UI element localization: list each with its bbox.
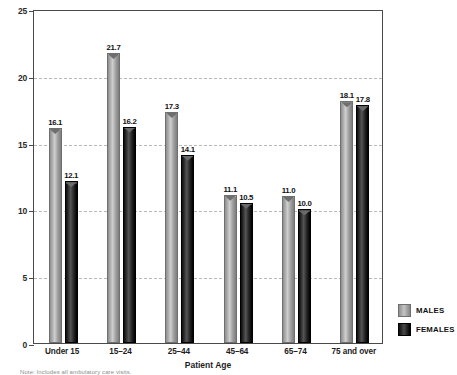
chart-footnote: Note: Includes all ambulatory care visit… xyxy=(20,369,132,375)
bar-group: 18.117.8 xyxy=(326,11,384,343)
bar-value-label: 11.0 xyxy=(282,186,296,195)
bar-value-label: 11.1 xyxy=(223,185,237,194)
y-axis-tick-label: 10 xyxy=(18,206,27,216)
x-axis-tick-label: 75 and over xyxy=(332,347,376,356)
legend-swatch-females-icon xyxy=(398,323,411,336)
bar-males-2: 17.3 xyxy=(165,112,178,343)
bar-value-label: 17.8 xyxy=(356,95,370,104)
bar-females-1: 16.2 xyxy=(123,127,136,343)
bar-top-notch-icon xyxy=(283,197,294,202)
bar-group: 16.112.1 xyxy=(34,11,92,343)
bar-value-label: 17.3 xyxy=(165,102,179,111)
chart-legend: MALES FEMALES xyxy=(398,304,455,342)
bar-top-notch-icon xyxy=(341,102,352,107)
bar-value-label: 10.5 xyxy=(239,193,253,202)
bar-group: 21.716.2 xyxy=(92,11,150,343)
bar-males-0: 16.1 xyxy=(49,128,62,343)
legend-item-females: FEMALES xyxy=(398,323,455,336)
bar-top-notch-icon xyxy=(225,196,236,201)
bar-group: 11.110.5 xyxy=(209,11,267,343)
bar-females-4: 10.0 xyxy=(298,209,311,343)
bar-value-label: 18.1 xyxy=(340,91,354,100)
y-axis-tick-label: 15 xyxy=(18,140,27,150)
bar-value-label: 16.1 xyxy=(48,118,62,127)
y-axis-tick-label: 0 xyxy=(22,340,27,350)
bar-males-3: 11.1 xyxy=(224,195,237,343)
bar-top-notch-icon xyxy=(66,182,77,187)
x-axis-tick-label: 45–64 xyxy=(226,347,248,356)
legend-item-males: MALES xyxy=(398,304,455,317)
bar-top-notch-icon xyxy=(241,204,252,209)
legend-swatch-males-icon xyxy=(398,304,411,317)
x-axis-tick-label: 15–24 xyxy=(109,347,131,356)
x-axis-tick-label: 25–44 xyxy=(168,347,190,356)
legend-label-females: FEMALES xyxy=(416,325,455,334)
bar-females-3: 10.5 xyxy=(240,203,253,343)
bar-top-notch-icon xyxy=(50,129,61,134)
y-axis-tick-label: 5 xyxy=(22,273,27,283)
bar-males-5: 18.1 xyxy=(340,101,353,343)
bar-top-notch-icon xyxy=(166,113,177,118)
x-axis-tick-label: Under 15 xyxy=(45,347,79,356)
bar-top-notch-icon xyxy=(182,156,193,161)
bar-females-5: 17.8 xyxy=(356,105,369,343)
bar-group: 17.314.1 xyxy=(151,11,209,343)
x-axis-tick-label: 65–74 xyxy=(284,347,306,356)
bar-females-0: 12.1 xyxy=(65,181,78,343)
bar-males-4: 11.0 xyxy=(282,196,295,343)
y-axis-tick xyxy=(29,345,34,346)
y-axis-tick-label: 25 xyxy=(18,6,27,16)
bar-top-notch-icon xyxy=(124,128,135,133)
x-axis-title: Patient Age xyxy=(185,360,231,370)
bar-value-label: 21.7 xyxy=(106,43,120,52)
bar-value-label: 16.2 xyxy=(122,117,136,126)
plot-area: 051015202516.112.121.716.217.314.111.110… xyxy=(33,10,383,344)
bar-females-2: 14.1 xyxy=(181,155,194,343)
legend-label-males: MALES xyxy=(416,306,444,315)
bar-top-notch-icon xyxy=(299,210,310,215)
bar-value-label: 10.0 xyxy=(297,199,311,208)
bar-group: 11.010.0 xyxy=(267,11,325,343)
bar-top-notch-icon xyxy=(108,54,119,59)
bar-males-1: 21.7 xyxy=(107,53,120,343)
bar-value-label: 12.1 xyxy=(64,171,78,180)
bar-value-label: 14.1 xyxy=(181,145,195,154)
bar-top-notch-icon xyxy=(357,106,368,111)
y-axis-tick-label: 20 xyxy=(18,73,27,83)
